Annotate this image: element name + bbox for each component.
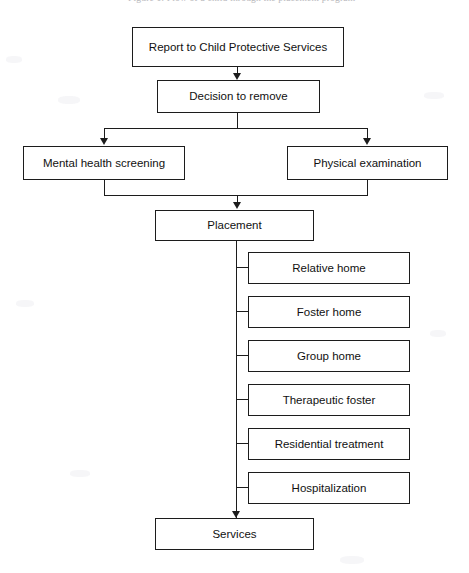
node-label: Hospitalization bbox=[288, 482, 371, 495]
node-decision-to-remove[interactable]: Decision to remove bbox=[157, 80, 320, 113]
page-caption: Figure 1. Flow of a child through the pl… bbox=[0, 0, 469, 11]
scan-speckle bbox=[70, 470, 90, 477]
node-placement-option[interactable]: Hospitalization bbox=[248, 472, 410, 504]
connector-split-bus bbox=[104, 128, 368, 129]
arrowhead-mental-health bbox=[100, 138, 108, 145]
node-label: Services bbox=[208, 528, 260, 541]
arrowhead-services bbox=[232, 511, 240, 518]
node-placement-option[interactable]: Therapeutic foster bbox=[248, 384, 410, 416]
connector-mental-health-down bbox=[104, 180, 105, 196]
scan-speckle bbox=[340, 556, 364, 564]
connector-spine-to-option bbox=[236, 443, 248, 444]
connector-merge-bus bbox=[104, 195, 368, 196]
scan-speckle bbox=[430, 330, 446, 337]
node-label: Decision to remove bbox=[185, 90, 291, 103]
node-label: Group home bbox=[293, 350, 365, 363]
scan-speckle bbox=[16, 300, 34, 307]
node-placement[interactable]: Placement bbox=[155, 210, 314, 241]
node-label: Foster home bbox=[293, 306, 366, 319]
node-label: Therapeutic foster bbox=[279, 394, 380, 407]
node-placement-option[interactable]: Relative home bbox=[248, 252, 410, 284]
scan-speckle bbox=[58, 96, 80, 104]
node-label: Physical examination bbox=[309, 157, 425, 170]
connector-spine-to-option bbox=[236, 355, 248, 356]
node-mental-health-screening[interactable]: Mental health screening bbox=[23, 146, 185, 180]
connector-spine-to-option bbox=[236, 399, 248, 400]
connector-spine-to-option bbox=[236, 267, 248, 268]
page-caption-text: Figure 1. Flow of a child through the pl… bbox=[128, 0, 458, 3]
arrowhead-physical-exam bbox=[363, 138, 371, 145]
connector-decision-stem bbox=[237, 113, 238, 129]
node-label: Relative home bbox=[288, 262, 370, 275]
node-label: Report to Child Protective Services bbox=[145, 41, 331, 54]
node-label: Placement bbox=[203, 219, 265, 232]
node-report-to-child-protective-services[interactable]: Report to Child Protective Services bbox=[132, 27, 344, 67]
connector-spine-to-option bbox=[236, 311, 248, 312]
scan-speckle bbox=[6, 56, 22, 63]
node-placement-option[interactable]: Residential treatment bbox=[248, 428, 410, 460]
scan-speckle bbox=[424, 92, 444, 99]
flowchart-page: Figure 1. Flow of a child through the pl… bbox=[0, 0, 469, 573]
node-label: Mental health screening bbox=[39, 157, 169, 170]
node-label: Residential treatment bbox=[271, 438, 388, 451]
node-physical-examination[interactable]: Physical examination bbox=[287, 146, 448, 180]
node-services[interactable]: Services bbox=[155, 518, 314, 550]
connector-spine-to-option bbox=[236, 487, 248, 488]
arrowhead-decision bbox=[233, 73, 241, 80]
node-placement-option[interactable]: Group home bbox=[248, 340, 410, 372]
connector-physical-exam-down bbox=[367, 180, 368, 196]
node-placement-option[interactable]: Foster home bbox=[248, 296, 410, 328]
connector-placement-spine bbox=[236, 241, 237, 518]
arrowhead-placement bbox=[233, 202, 241, 209]
